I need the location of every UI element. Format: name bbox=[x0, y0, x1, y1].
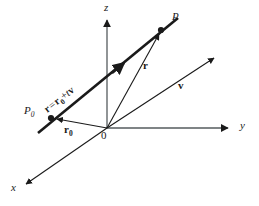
point-P-dot bbox=[158, 27, 164, 33]
line-through-points bbox=[38, 18, 178, 133]
vector-line-diagram: z y x 0 P0 P r0 r v r=r0+tv bbox=[0, 0, 259, 206]
vector-v-line bbox=[107, 58, 214, 128]
y-axis-label: y bbox=[240, 120, 245, 131]
line-direction-arrow bbox=[112, 63, 124, 73]
vector-v-label: v bbox=[178, 80, 184, 91]
point-P0-subscript: 0 bbox=[31, 110, 35, 119]
point-P0-label: P0 bbox=[24, 105, 34, 119]
x-axis-label: x bbox=[11, 182, 16, 193]
vector-r0-subscript: 0 bbox=[69, 129, 73, 138]
origin-label: 0 bbox=[101, 130, 107, 141]
point-P0-letter: P bbox=[24, 104, 31, 116]
vector-r-line bbox=[107, 34, 159, 128]
z-axis-label: z bbox=[104, 2, 108, 13]
point-P-label: P bbox=[172, 11, 179, 22]
vector-r0-label: r0 bbox=[64, 124, 73, 138]
diagram-canvas bbox=[0, 0, 259, 206]
vector-r-label: r bbox=[143, 60, 148, 71]
